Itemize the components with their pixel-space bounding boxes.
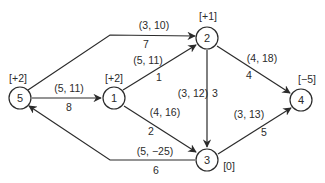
node-3-id: 3 xyxy=(204,154,210,166)
edge-3-4-params: (3, 13) xyxy=(234,108,264,120)
node-1-supply: [+2] xyxy=(105,72,123,84)
edge-1-2-index: 1 xyxy=(156,71,162,83)
node-4-id: 4 xyxy=(298,94,304,106)
node-2-supply: [+1] xyxy=(199,10,217,22)
node-4: 4 [−5] xyxy=(290,73,316,111)
edge-1-2-params: (5, 11) xyxy=(133,54,163,66)
edge-3-4: (3, 13) 5 xyxy=(218,108,291,154)
node-3: 3 [0] xyxy=(196,149,235,172)
node-3-supply: [0] xyxy=(223,160,235,172)
node-4-supply: [−5] xyxy=(298,73,316,85)
node-5-supply: [+2] xyxy=(9,72,27,84)
edge-2-3-params: (3, 12) xyxy=(178,87,208,99)
node-1-id: 1 xyxy=(111,92,117,104)
edge-3-4-index: 5 xyxy=(261,126,267,138)
edge-5-1-params: (5, 11) xyxy=(54,82,84,94)
node-2: 2 [+1] xyxy=(196,10,218,49)
edge-5-2-params: (3, 10) xyxy=(139,19,169,31)
edge-1-3-params: (4, 16) xyxy=(150,106,180,118)
node-5: 5 [+2] xyxy=(9,72,31,109)
edge-5-1: (5, 11) 8 xyxy=(32,82,101,113)
edge-2-4-params: (4, 18) xyxy=(247,52,277,64)
edge-5-2-index: 7 xyxy=(143,38,149,50)
edge-2-3-index: 3 xyxy=(212,87,218,99)
edge-1-2: (5, 11) 1 xyxy=(123,45,196,90)
edge-3-5-index: 6 xyxy=(153,164,159,176)
edge-1-3-index: 2 xyxy=(148,125,154,137)
node-5-id: 5 xyxy=(17,92,23,104)
edge-3-5-params: (5, −25) xyxy=(137,145,173,157)
edge-5-1-index: 8 xyxy=(66,101,72,113)
edge-2-4-index: 4 xyxy=(246,69,252,81)
node-1: 1 [+2] xyxy=(103,72,125,109)
edge-2-4: (4, 18) 4 xyxy=(217,46,290,93)
edge-2-3: (3, 12) 3 xyxy=(178,50,218,147)
node-2-id: 2 xyxy=(204,32,210,44)
network-diagram: (3, 10) 7 (5, 11) 1 (5, 11) 8 (4, 16) 2 … xyxy=(0,0,325,183)
